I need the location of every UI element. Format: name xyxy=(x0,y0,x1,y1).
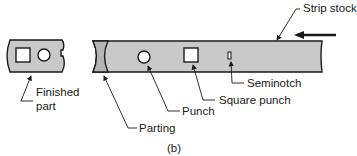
parting-leader xyxy=(104,76,137,128)
square-punch-hole-icon xyxy=(184,48,198,62)
punch-leader xyxy=(148,66,180,111)
punch-hole-icon xyxy=(138,51,150,63)
strip-stock xyxy=(93,41,322,72)
finished-part-label-line1: Finished xyxy=(36,86,79,99)
strip-stock-label: Strip stock xyxy=(303,2,357,15)
finished-part-leader xyxy=(21,76,33,101)
round-hole-icon xyxy=(38,49,50,61)
finished-part xyxy=(7,40,64,72)
square-hole-icon xyxy=(16,48,30,62)
square-punch-label: Square punch xyxy=(219,94,291,107)
seminotch-label: Seminotch xyxy=(247,77,301,90)
parting-label: Parting xyxy=(139,122,175,135)
punch-label: Punch xyxy=(182,105,215,118)
finished-part-label-line2: part xyxy=(36,100,56,113)
seminotch-icon xyxy=(228,52,231,59)
figure-caption: (b) xyxy=(167,142,181,155)
